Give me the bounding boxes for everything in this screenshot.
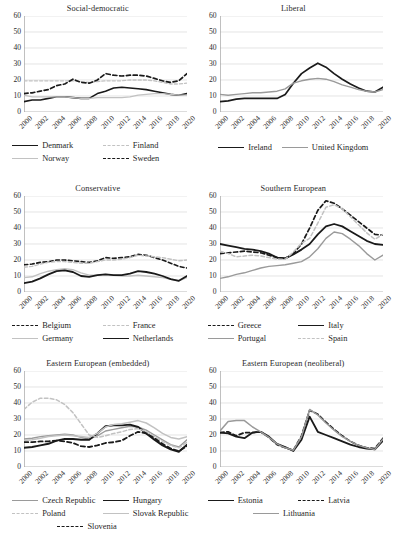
legend-label: Ireland [248, 142, 272, 153]
series-line-belgium [24, 254, 187, 268]
y-tick-label: 60 [209, 12, 217, 20]
y-tick-label: 20 [13, 256, 21, 264]
y-tick-label: 10 [13, 447, 21, 455]
x-tick-label: 2016 [147, 114, 164, 131]
x-tick-label: 2006 [261, 114, 278, 131]
legend-item[interactable]: Lithuania [253, 508, 334, 519]
y-tick-label: 0 [17, 288, 21, 296]
legend-item[interactable]: Ireland [218, 142, 272, 153]
x-axis: 2000200220042006200820102012201420162018… [24, 292, 188, 320]
legend-item[interactable]: Slovenia [57, 521, 138, 532]
legend-item[interactable]: France [103, 320, 184, 331]
legend-label: Belgium [42, 320, 71, 331]
legend-item[interactable]: Latvia [298, 495, 379, 506]
legend-label: Poland [42, 508, 65, 519]
y-tick-label: 10 [13, 92, 21, 100]
y-tick-label: 0 [17, 463, 21, 471]
legend-item[interactable]: United Kingdom [282, 142, 369, 153]
plot-area: 0102030405060 [220, 196, 384, 292]
legend-item[interactable]: Norway [12, 153, 93, 164]
y-tick-label: 50 [209, 208, 217, 216]
y-tick-label: 60 [13, 12, 21, 20]
legend-label: Slovak Republic [133, 508, 189, 519]
y-tick-label: 60 [13, 192, 21, 200]
x-tick-label: 2020 [375, 114, 392, 131]
legend-item[interactable]: Hungary [103, 495, 184, 506]
legend-item[interactable]: Slovak Republic [103, 508, 184, 519]
x-tick-label: 2002 [229, 469, 246, 486]
panel-title: Conservative [0, 180, 196, 196]
legend-line-swatch [298, 500, 324, 501]
x-tick-label: 2020 [180, 469, 197, 486]
legend-line-swatch [12, 338, 38, 339]
y-tick-label: 30 [209, 240, 217, 248]
legend-item[interactable]: Finland [103, 140, 184, 151]
series-line-portugal [220, 232, 383, 278]
x-tick-label: 2008 [278, 469, 295, 486]
y-tick-label: 60 [209, 192, 217, 200]
legend-line-swatch [298, 338, 324, 339]
legend-line-swatch [298, 325, 324, 326]
y-tick-label: 50 [13, 383, 21, 391]
y-tick-label: 20 [13, 76, 21, 84]
y-tick-label: 30 [13, 240, 21, 248]
panel-legend: BelgiumFranceGermanyNetherlands [0, 320, 196, 344]
legend-item[interactable]: Poland [12, 508, 93, 519]
x-axis: 2000200220042006200820102012201420162018… [220, 112, 384, 140]
x-tick-label: 2016 [147, 469, 164, 486]
x-tick-label: 2018 [164, 294, 181, 311]
legend-item[interactable]: Portugal [208, 333, 289, 344]
legend-item[interactable]: Estonia [208, 495, 289, 506]
series-line-lithuania [220, 409, 383, 450]
legend-item[interactable]: Czech Republic [12, 495, 93, 506]
legend-item[interactable]: Sweden [103, 153, 184, 164]
chart-panel-4: Southern European01020304050602000200220… [196, 180, 392, 355]
x-tick-label: 2020 [375, 294, 392, 311]
x-tick-label: 2018 [164, 114, 181, 131]
y-tick-label: 10 [209, 92, 217, 100]
panel-legend: DenmarkFinlandNorwaySweden [0, 140, 196, 164]
x-tick-label: 2016 [343, 469, 360, 486]
y-tick-label: 50 [13, 208, 21, 216]
x-tick-label: 2004 [245, 469, 262, 486]
legend-label: Spain [328, 333, 347, 344]
legend-line-swatch [12, 500, 38, 501]
legend-line-swatch [208, 500, 234, 501]
x-tick-label: 2008 [278, 294, 295, 311]
x-tick-label: 2014 [327, 294, 344, 311]
plot-area: 0102030405060 [24, 196, 188, 292]
x-tick-label: 2018 [359, 294, 376, 311]
legend-label: Netherlands [133, 333, 173, 344]
legend-item[interactable]: Netherlands [103, 333, 184, 344]
legend-label: Lithuania [283, 508, 315, 519]
plot-svg [220, 196, 383, 292]
legend-item[interactable]: Germany [12, 333, 93, 344]
x-tick-label: 2020 [180, 294, 197, 311]
y-tick-label: 0 [17, 108, 21, 116]
panel-title: Southern European [196, 180, 392, 196]
y-tick-label: 10 [209, 447, 217, 455]
legend-label: Slovenia [87, 521, 116, 532]
panel-title: Social-democratic [0, 0, 196, 16]
legend-item[interactable]: Denmark [12, 140, 93, 151]
legend-item[interactable]: Greece [208, 320, 289, 331]
x-tick-label: 2018 [359, 469, 376, 486]
plot-area: 0102030405060 [24, 371, 188, 467]
x-tick-label: 2006 [261, 469, 278, 486]
x-tick-label: 2004 [245, 114, 262, 131]
y-tick-label: 10 [209, 272, 217, 280]
series-line-united-kingdom [220, 78, 383, 95]
legend-item[interactable]: Spain [298, 333, 379, 344]
legend-line-swatch [12, 325, 38, 326]
x-tick-label: 2018 [359, 114, 376, 131]
x-tick-label: 2010 [98, 114, 115, 131]
x-tick-label: 2012 [115, 469, 132, 486]
legend-label: Italy [328, 320, 343, 331]
legend-item[interactable]: Belgium [12, 320, 93, 331]
legend-item[interactable]: Italy [298, 320, 379, 331]
y-tick-label: 50 [209, 28, 217, 36]
x-tick-label: 2020 [180, 114, 197, 131]
x-tick-label: 2014 [131, 469, 148, 486]
panel-legend: Czech RepublicHungaryPolandSlovak Republ… [0, 495, 196, 532]
